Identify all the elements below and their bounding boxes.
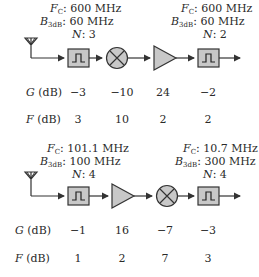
chain1-bandpass-filter-icon-1 [68,49,89,67]
b-symbol: B [175,155,183,168]
fc-symbol: F [47,142,55,155]
chain2-filter1-order: N: 4 [72,169,96,181]
fc-symbol: F [183,142,191,155]
chain1-gain-3: 24 [148,86,178,99]
chain2-gain-2: 16 [107,224,137,237]
chain1-bandpass-filter-icon-2 [198,49,219,67]
b-subscript: 3dB [48,161,62,169]
n-symbol: N [203,168,213,181]
chain2-bandpass-filter-icon-2 [198,187,219,205]
chain2-nf-3: 7 [150,252,180,265]
chain1-nf-4: 2 [193,113,223,126]
chain2-nf-4: 3 [193,252,223,265]
chain1-antenna-icon [25,38,37,58]
n-value: : 4 [82,168,96,181]
nf-unit: (dB) [34,113,61,126]
b-subscript: 3dB [183,161,197,169]
gain-symbol: G [26,86,35,99]
chain1-nf-label: F (dB) [26,113,61,126]
chain2-nf-1: 1 [63,252,93,265]
chain1-nf-2: 10 [107,113,137,126]
chain2-filter2-order: N: 4 [203,169,227,181]
n-value: : 4 [213,168,227,181]
b-value: : 300 MHz [197,155,255,168]
chain1-gain-label: G (dB) [26,86,62,99]
chain1-mixer-icon [107,48,128,69]
b-symbol: B [40,155,48,168]
chain2-gain-1: −1 [63,224,93,237]
nf-symbol: F [26,113,34,126]
chain2-bandpass-filter-icon-1 [68,187,89,205]
gain-unit: (dB) [24,224,51,237]
chain2-nf-label: F (dB) [15,252,50,265]
nf-symbol: F [15,252,23,265]
fc-value: : 10.7 MHz [196,142,258,155]
b-value: : 100 MHz [62,155,120,168]
chain2-gain-label: G (dB) [15,224,51,237]
chain2-antenna-icon [25,172,37,196]
chain1-gain-2: −10 [107,86,137,99]
fc-value: : 101.1 MHz [60,142,129,155]
chain2-mixer-icon [157,186,178,207]
nf-unit: (dB) [23,252,50,265]
chain1-gain-4: −2 [193,86,223,99]
n-symbol: N [72,168,82,181]
chain2-nf-2: 2 [107,252,137,265]
chain1-nf-1: 3 [63,113,93,126]
gain-symbol: G [15,224,24,237]
gain-unit: (dB) [35,86,62,99]
chain1-gain-1: −3 [63,86,93,99]
chain1-amplifier-icon [154,46,176,70]
chain2-amplifier-icon [112,184,134,208]
chain1-nf-3: 2 [148,113,178,126]
chain2-gain-4: −3 [193,224,223,237]
chain2-gain-3: −7 [150,224,180,237]
